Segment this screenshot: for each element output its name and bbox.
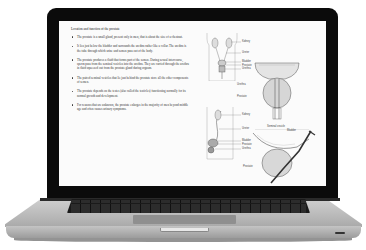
figure-prostate-front: Urethra Prostate xyxy=(247,61,307,121)
bullet-icon xyxy=(72,77,73,78)
urinary-tract-front-illustration xyxy=(205,33,245,81)
bullet-item: For reasons that are unknown, the prosta… xyxy=(71,103,189,111)
figure-side-view: Kidney Ureter Bladder Prostate Urethra xyxy=(205,107,255,163)
document-text: Location and function of the prostate Th… xyxy=(71,27,189,117)
document-title: Location and function of the prostate xyxy=(71,27,189,31)
label-kidney: Kidney xyxy=(242,40,250,43)
laptop-shadow xyxy=(14,238,352,242)
urinary-tract-side-illustration xyxy=(205,107,243,163)
bullet-item: The prostate depends on the testes (also… xyxy=(71,89,189,97)
label-urethra-2: Urethra xyxy=(237,83,246,86)
bullet-item: The prostate is a small gland, present o… xyxy=(71,35,189,39)
label-prostate-4: Prostate xyxy=(243,165,253,168)
bullet-item: It lies just below the bladder and surro… xyxy=(71,44,189,52)
prostate-front-illustration xyxy=(247,61,307,121)
label-bladder-4: Bladder xyxy=(287,129,296,132)
lid-notch xyxy=(160,228,209,232)
figure-prostate-side: Seminal vesicle Bladder Prostate xyxy=(249,129,324,185)
bullet-icon xyxy=(72,59,73,60)
label-ureter: Ureter xyxy=(242,51,249,54)
key-row xyxy=(71,210,306,213)
bullet-icon xyxy=(72,104,73,105)
keyboard[interactable] xyxy=(67,199,310,213)
bullet-item: The paired seminal vesicles that lie jus… xyxy=(71,76,189,84)
laptop-screen: Location and function of the prostate Th… xyxy=(59,21,326,186)
label-seminal-vesicle: Seminal vesicle xyxy=(267,125,285,128)
bullet-icon xyxy=(72,46,73,47)
bullet-list: The prostate is a small gland, present o… xyxy=(71,35,189,111)
bullet-item: The prostate produces a fluid that forms… xyxy=(71,58,189,71)
prostate-side-illustration xyxy=(249,129,324,185)
label-kidney-3: Kidney xyxy=(242,113,250,116)
label-prostate-2: Prostate xyxy=(237,95,247,98)
trackpad[interactable] xyxy=(133,215,236,224)
bullet-icon xyxy=(72,36,73,37)
bullet-icon xyxy=(72,91,73,92)
sleep-indicator-icon xyxy=(335,232,345,234)
